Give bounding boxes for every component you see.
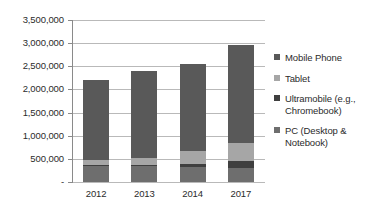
- plot-area: [72, 20, 265, 182]
- y-axis-tick-label: 1,000,000: [2, 131, 64, 141]
- x-axis-tick-label: 2013: [122, 188, 166, 199]
- legend-swatch-icon: [274, 75, 280, 81]
- bar-segment[interactable]: [228, 161, 254, 168]
- bar-segment[interactable]: [131, 71, 157, 158]
- bar-segment[interactable]: [83, 166, 109, 182]
- y-axis-tick-label: 3,000,000: [2, 38, 64, 48]
- bar-stack[interactable]: [131, 20, 157, 182]
- legend-label: Tablet: [285, 73, 310, 85]
- bar-segment[interactable]: [131, 158, 157, 165]
- legend-swatch-icon: [274, 127, 280, 133]
- y-axis-tick-label: 500,000: [2, 154, 64, 164]
- bar-segment[interactable]: [131, 166, 157, 182]
- bar-segment[interactable]: [228, 168, 254, 182]
- stacked-bar-chart: -500,0001,000,0001,500,0002,000,0002,500…: [0, 0, 383, 215]
- y-axis-tick-label: -: [2, 177, 64, 187]
- bar-stack[interactable]: [180, 20, 206, 182]
- legend-swatch-icon: [274, 54, 280, 60]
- legend-item[interactable]: PC (Desktop & Notebook): [274, 125, 383, 148]
- bar-segment[interactable]: [180, 167, 206, 182]
- bar-segment[interactable]: [228, 143, 254, 162]
- bar-stack[interactable]: [228, 20, 254, 182]
- gridline: [72, 182, 265, 183]
- y-axis-tick-label: 1,500,000: [2, 108, 64, 118]
- bar-segment[interactable]: [83, 80, 109, 160]
- bar-segment[interactable]: [180, 151, 206, 163]
- bar-stack[interactable]: [83, 20, 109, 182]
- x-axis-tick-label: 2017: [219, 188, 263, 199]
- legend-item[interactable]: Ultramobile (e.g., Chromebook): [274, 93, 383, 116]
- y-axis-tick-label: 3,500,000: [2, 15, 64, 25]
- x-axis-tick-label: 2014: [171, 188, 215, 199]
- bar-segment[interactable]: [131, 165, 157, 166]
- chart-legend: Mobile PhoneTabletUltramobile (e.g., Chr…: [274, 52, 383, 157]
- legend-item[interactable]: Tablet: [274, 73, 383, 85]
- bar-segment[interactable]: [228, 45, 254, 142]
- bar-segment[interactable]: [83, 160, 109, 166]
- bar-segment[interactable]: [180, 164, 206, 167]
- x-axis-tick-label: 2012: [74, 188, 118, 199]
- bar-segment[interactable]: [180, 64, 206, 151]
- legend-item[interactable]: Mobile Phone: [274, 52, 383, 64]
- legend-label: Mobile Phone: [285, 52, 342, 64]
- legend-label: Ultramobile (e.g., Chromebook): [285, 93, 383, 116]
- legend-label: PC (Desktop & Notebook): [285, 125, 383, 148]
- y-axis-tick-label: 2,500,000: [2, 61, 64, 71]
- legend-swatch-icon: [274, 95, 280, 101]
- y-axis-tick-label: 2,000,000: [2, 84, 64, 94]
